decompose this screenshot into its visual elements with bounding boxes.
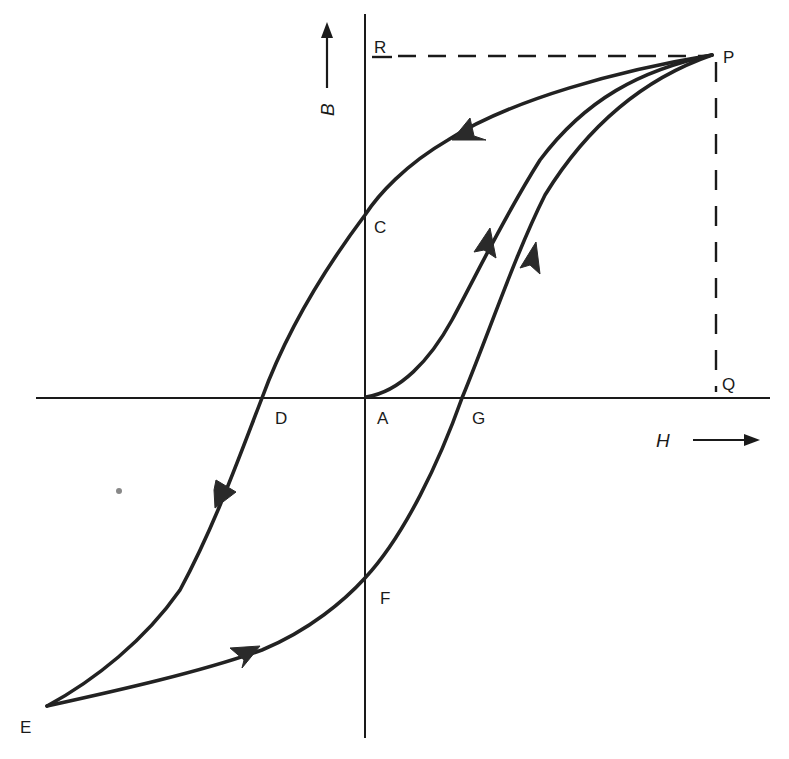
h-arrow-head-icon [744,434,760,446]
lower-ascending-branch [47,55,712,706]
label-q: Q [722,375,735,394]
b-axis-label: B [317,103,338,116]
label-e: E [20,718,31,737]
upper-descending-branch [47,55,712,706]
label-g: G [472,409,485,428]
b-arrow-head-icon [321,22,333,38]
arrow-descending-left-icon [214,480,236,508]
label-d: D [275,409,287,428]
label-c: C [374,218,386,237]
label-f: F [380,589,390,608]
h-axis-label: H [656,430,670,451]
label-p: P [723,48,734,67]
print-speck [116,488,122,494]
hysteresis-diagram: P R Q C D A G F E B H [0,0,789,759]
label-r: R [374,38,386,57]
label-a: A [377,409,389,428]
initial-magnetization-curve [366,55,712,397]
arrow-lower-branch-bottom-icon [230,646,260,668]
